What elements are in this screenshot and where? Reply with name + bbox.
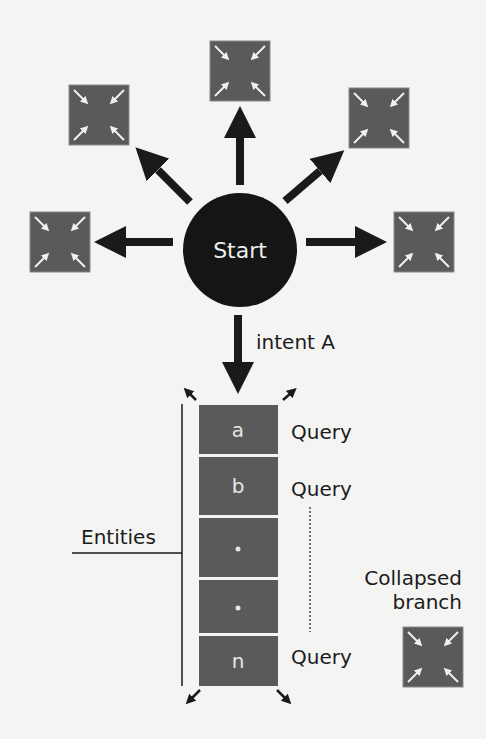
diagram-canvas: Start a b n xyxy=(0,0,486,739)
small-arrow-top-right xyxy=(283,393,291,400)
collapse-arrows-icon xyxy=(30,212,90,272)
entity-cell-label: a xyxy=(232,418,244,442)
start-node: Start xyxy=(183,193,297,307)
collapsed-branch-label: Collapsed branch xyxy=(364,566,462,614)
collapsed-branch-node xyxy=(403,627,463,687)
entity-stack: a b n xyxy=(199,405,278,686)
search-tree-diagram: Start a b n intent A Query Query Query E… xyxy=(0,0,486,739)
query-label: Query xyxy=(291,477,352,501)
small-arrow-bottom-left xyxy=(191,690,200,699)
ellipsis-dot xyxy=(236,606,241,611)
branch-node-upper-right xyxy=(349,88,409,148)
entities-label: Entities xyxy=(81,525,156,549)
collapse-arrows-icon xyxy=(69,85,129,145)
ellipsis-dot xyxy=(236,547,241,552)
small-arrow-bottom-right xyxy=(277,690,286,699)
entity-cell-label: b xyxy=(232,474,245,498)
collapse-arrows-icon xyxy=(349,88,409,148)
entity-cell-label: n xyxy=(232,649,245,673)
collapse-arrows-icon xyxy=(403,627,463,687)
branch-node-right xyxy=(394,212,454,272)
collapse-arrows-icon xyxy=(394,212,454,272)
query-label: Query xyxy=(291,420,352,444)
branch-node-upper-left xyxy=(69,85,129,145)
branch-node-top xyxy=(210,41,270,101)
arrow-upper-right xyxy=(285,171,320,201)
arrow-upper-left xyxy=(158,170,190,202)
intent-label: intent A xyxy=(256,330,335,354)
branch-node-left xyxy=(30,212,90,272)
small-arrow-top-left xyxy=(189,393,196,400)
collapsed-branch-label-line1: Collapsed xyxy=(364,566,462,590)
collapsed-branch-label-line2: branch xyxy=(364,590,462,614)
query-label: Query xyxy=(291,645,352,669)
collapse-arrows-icon xyxy=(210,41,270,101)
start-label: Start xyxy=(213,238,267,263)
